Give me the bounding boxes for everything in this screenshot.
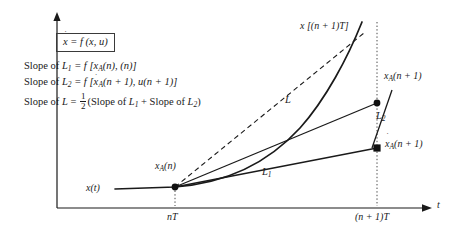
x-axis-label: t (437, 199, 440, 210)
label-start-point: xA(n) (155, 160, 176, 173)
label-trajectory: x(t) (86, 182, 100, 193)
corrected-point-tail: (n + 1) (393, 70, 421, 81)
legend-rhs: = f [x (72, 60, 99, 71)
legend-line-L2: Slope of L2 = f [x˙A(n + 1), u(n + 1)] (24, 76, 177, 90)
legend-prefix: Slope of (24, 96, 62, 107)
fraction-denominator: 2 (80, 102, 87, 111)
tick-label-nT: nT (167, 211, 178, 222)
line-L2-subscript: 2 (382, 114, 386, 123)
legend-rhs: = (68, 96, 79, 107)
line-L (175, 103, 377, 187)
legend-rhs-tail: (Slope of L1 + Slope of L2) (87, 96, 200, 107)
state-equation-box: x˙ = f (x, u) (56, 33, 115, 52)
x-dot-symbol: x˙ (385, 138, 389, 149)
legend-prefix: Slope of (24, 76, 62, 87)
legend-rhs-tail: (n), (n)] (103, 60, 137, 71)
tick-label-n-plus-1-T: (n + 1)T (355, 211, 389, 222)
legend-prefix: Slope of (24, 60, 62, 71)
one-half-fraction: 12 (80, 92, 87, 111)
predicted-point-tail: (n + 1) (394, 138, 422, 149)
legend-line-L: Slope of L = 12(Slope of L1 + Slope of L… (24, 92, 201, 111)
marker-predicted-point (373, 144, 380, 151)
legend-rhs-tail: (n + 1), u(n + 1)] (103, 76, 177, 87)
marker-corrected-point (374, 100, 381, 107)
label-line-L: L (285, 94, 291, 105)
legend-line-L1: Slope of L1 = f [xA(n), (n)] (24, 60, 137, 74)
label-line-L2: L2 (376, 110, 386, 123)
trajectory-text: x(t) (86, 182, 100, 193)
y-axis-arrowhead (53, 12, 60, 21)
dot-accent-icon: ˙ (64, 31, 67, 39)
tick-nT-text: nT (167, 211, 178, 222)
label-corrected-point: xA(n + 1) (384, 70, 421, 83)
line-L1-subscript: 1 (268, 170, 272, 179)
line-L1 (175, 148, 377, 187)
x-axis-arrowhead (422, 204, 432, 212)
label-line-L1: L1 (262, 166, 272, 179)
label-exact-solution: x [(n + 1)T] (300, 20, 349, 31)
start-point-tail: (n) (164, 160, 176, 171)
x-axis-label-text: t (437, 199, 440, 210)
line-L-text: L (285, 94, 291, 105)
equation-rhs: = f (x, u) (70, 36, 107, 47)
x-dot-symbol: x˙ (63, 36, 68, 48)
label-predicted-point: x˙A(n + 1) (385, 138, 422, 151)
tick-n-plus-1-T-text: (n + 1)T (355, 211, 389, 222)
dot-accent-icon: ˙ (386, 133, 389, 141)
exact-solution-chord-dashed (175, 33, 364, 187)
marker-start-point (172, 184, 179, 191)
